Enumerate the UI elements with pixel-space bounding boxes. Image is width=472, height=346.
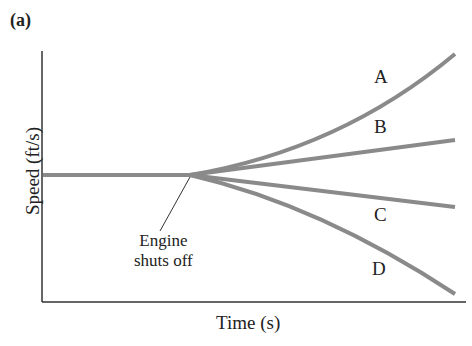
curve-b	[190, 140, 455, 175]
annotation-line1: Engine	[134, 231, 193, 251]
plot-area	[0, 0, 472, 346]
annotation-leader-line	[160, 177, 190, 231]
curve-c	[190, 175, 455, 207]
annotation-line2: shuts off	[134, 251, 193, 271]
label-b: B	[374, 116, 387, 138]
y-axis-label: Speed (ft/s)	[22, 116, 44, 226]
label-c: C	[374, 204, 387, 226]
engine-annotation: Engine shuts off	[134, 231, 193, 271]
label-a: A	[374, 66, 388, 88]
x-axis-label: Time (s)	[216, 312, 280, 334]
label-d: D	[372, 258, 386, 280]
